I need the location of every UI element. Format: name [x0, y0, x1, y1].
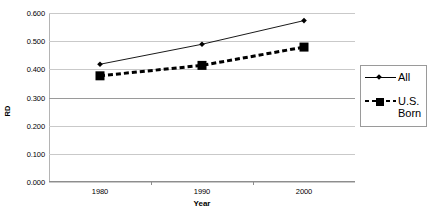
legend-label-us-born: U.S. Born: [398, 96, 421, 119]
x-tick-mark: [253, 182, 254, 185]
y-tick-label: 0.200: [27, 121, 45, 130]
chart-container: RD 0.0000.1000.2000.3000.4000.5000.600 1…: [0, 0, 432, 221]
y-tick-label: 0.500: [27, 37, 45, 46]
x-axis-title: Year: [49, 199, 355, 208]
data-point-square: [198, 61, 207, 70]
data-point-diamond: [97, 61, 103, 67]
y-tick-label: 0.400: [27, 65, 45, 74]
gridline: [49, 182, 355, 183]
y-tick-label: 0.100: [27, 149, 45, 158]
y-axis-title: RD: [3, 105, 12, 116]
plot-area: 0.0000.1000.2000.3000.4000.5000.600 1980…: [49, 13, 355, 182]
data-point-square: [300, 43, 309, 52]
legend-key-dashed-square-icon: [365, 96, 396, 107]
data-series-layer: [49, 13, 355, 182]
legend-item-us-born[interactable]: U.S. Born: [365, 96, 421, 119]
legend-label-all: All: [398, 72, 410, 84]
x-tick-mark: [151, 182, 152, 185]
y-tick-label: 0.600: [27, 9, 45, 18]
data-point-diamond: [199, 41, 205, 47]
chart-legend: All U.S. Born: [360, 65, 427, 127]
legend-item-all[interactable]: All: [365, 72, 410, 84]
data-point-diamond: [301, 18, 307, 24]
x-tick-label: 1990: [194, 187, 210, 196]
x-tick-label: 1980: [92, 187, 108, 196]
x-tick-label: 2000: [296, 187, 312, 196]
data-point-square: [96, 71, 105, 80]
y-tick-label: 0.000: [27, 178, 45, 187]
legend-key-line-diamond-icon: [365, 72, 396, 83]
y-tick-label: 0.300: [27, 93, 45, 102]
